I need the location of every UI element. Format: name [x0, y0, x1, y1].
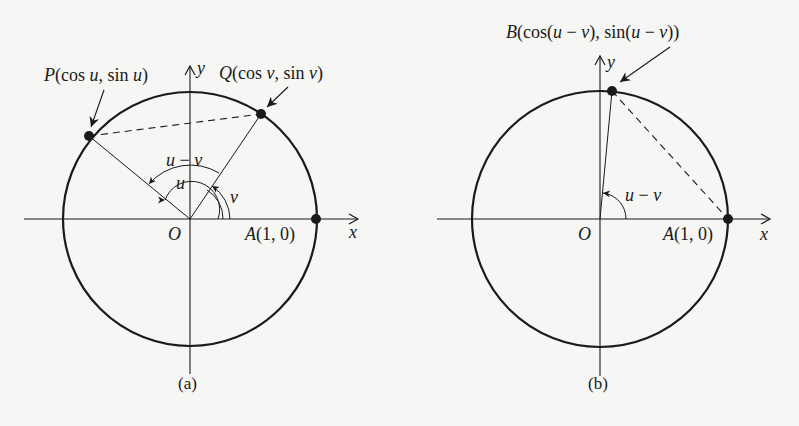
angle-arc-v [212, 186, 230, 219]
label-y-axis-a: y [195, 58, 205, 78]
label-B: B(cos(u − v), sin(u − v)) [506, 22, 679, 43]
label-x-axis-b: x [759, 224, 768, 244]
figure-a: P(cos u, sin u) Q(cos v, sin v) y x O A(… [24, 58, 358, 393]
caption-a: (a) [178, 374, 197, 393]
label-origin-a: O [168, 224, 181, 244]
figure-b: B(cos(u − v), sin(u − v)) y x O A(1, 0) … [437, 22, 770, 393]
caption-b: (b) [588, 374, 608, 393]
unit-circle-diagrams: P(cos u, sin u) Q(cos v, sin v) y x O A(… [0, 0, 799, 426]
label-angle-v: v [230, 187, 238, 207]
label-angle-u-minus-v-b: u − v [625, 185, 661, 205]
label-P: P(cos u, sin u) [43, 65, 148, 86]
point-A [311, 214, 321, 224]
label-angle-u-minus-v-a: u − v [166, 150, 202, 170]
point-Q [256, 109, 266, 119]
point-A [723, 214, 733, 224]
pointer-arrow-Q [267, 87, 288, 107]
label-angle-u: u [176, 173, 185, 193]
angle-arc-u-minus-v [603, 193, 626, 219]
label-x-axis-a: x [348, 222, 357, 242]
diagram-svg: P(cos u, sin u) Q(cos v, sin v) y x O A(… [0, 0, 799, 426]
radius-OP [89, 136, 190, 219]
label-origin-b: O [578, 224, 591, 244]
point-P [84, 131, 94, 141]
label-A-a: A(1, 0) [244, 224, 295, 245]
pointer-arrow-P [91, 90, 104, 127]
label-A-b: A(1, 0) [662, 224, 713, 245]
label-y-axis-b: y [605, 52, 615, 72]
pointer-arrow-B [620, 47, 670, 82]
label-Q: Q(cos v, sin v) [219, 63, 323, 84]
radius-OB [600, 91, 612, 219]
point-B [607, 86, 617, 96]
